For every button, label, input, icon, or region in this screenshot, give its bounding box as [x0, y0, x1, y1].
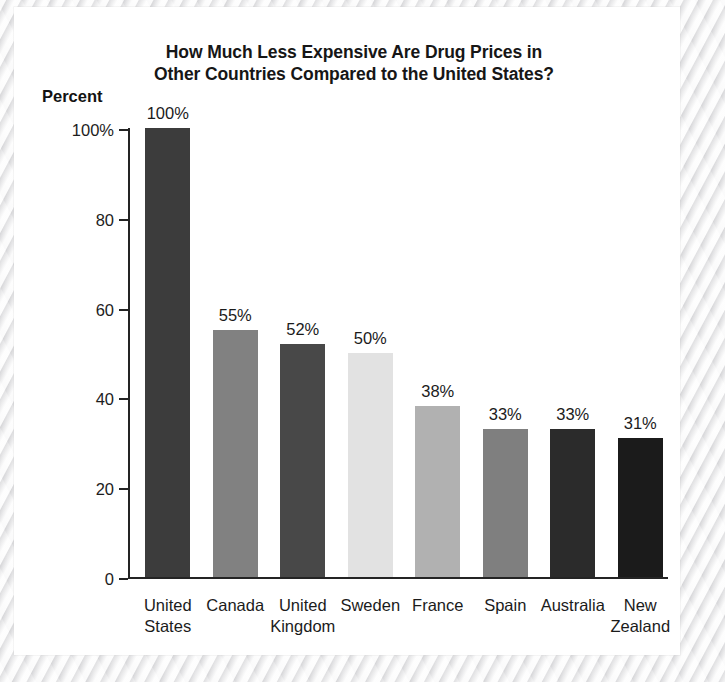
x-axis-category-label: Spain — [484, 595, 526, 616]
y-axis-tick-label: 20 — [96, 480, 114, 499]
y-axis-title: Percent — [42, 87, 103, 106]
y-axis-tick-label: 100% — [72, 121, 114, 140]
x-axis-category-label-line: United — [270, 595, 335, 616]
x-axis-category: France — [404, 581, 472, 641]
x-axis-category: Spain — [472, 581, 540, 641]
x-axis-category: Australia — [539, 581, 607, 641]
bar-group[interactable]: 31% — [618, 128, 663, 577]
y-axis-tick-label: 0 — [105, 570, 114, 589]
x-axis-category-label-line: Sweden — [340, 595, 400, 616]
chart-title-line-2: Other Countries Compared to the United S… — [74, 63, 634, 85]
bar-group[interactable]: 100% — [145, 128, 190, 577]
bar-value-label: 33% — [489, 405, 522, 424]
bar-series: 100%55%52%50%38%33%33%31% — [128, 128, 668, 577]
x-axis-category-label-line: New — [610, 595, 670, 616]
bar-group[interactable]: 50% — [348, 128, 393, 577]
y-axis-tick-mark — [119, 398, 128, 400]
bar-value-label: 52% — [286, 320, 319, 339]
bar-value-label: 33% — [556, 405, 589, 424]
x-axis-category-label-line: France — [412, 595, 463, 616]
y-axis-tick-mark — [119, 309, 128, 311]
x-axis-category-label: UnitedStates — [144, 595, 192, 637]
bar-group[interactable]: 33% — [550, 128, 595, 577]
x-axis-category-label-line: Canada — [206, 595, 264, 616]
x-axis-category: Sweden — [337, 581, 405, 641]
bar-value-label: 50% — [354, 329, 387, 348]
plot-area: 020406080100% 100%55%52%50%38%33%33%31% … — [128, 128, 668, 579]
y-axis-tick-mark — [119, 129, 128, 131]
x-axis-category-label-line: States — [144, 616, 192, 637]
x-axis-category-label-line: Zealand — [610, 616, 670, 637]
chart-title-line-1: How Much Less Expensive Are Drug Prices … — [74, 41, 634, 63]
x-axis-category-label-line: Spain — [484, 595, 526, 616]
bar-group[interactable]: 33% — [483, 128, 528, 577]
x-axis-category-label-line: United — [144, 595, 192, 616]
x-axis-category-label-line: Kingdom — [270, 616, 335, 637]
bar[interactable] — [280, 344, 325, 577]
x-axis-category-labels: UnitedStatesCanadaUnitedKingdomSwedenFra… — [128, 581, 668, 641]
chart-title: How Much Less Expensive Are Drug Prices … — [74, 41, 634, 85]
y-axis-tick-label: 80 — [96, 210, 114, 229]
chart-panel: How Much Less Expensive Are Drug Prices … — [14, 7, 680, 655]
bar[interactable] — [483, 429, 528, 577]
chart-figure: How Much Less Expensive Are Drug Prices … — [14, 7, 680, 655]
x-axis-category: Canada — [202, 581, 270, 641]
bar[interactable] — [213, 330, 258, 577]
bar-group[interactable]: 38% — [415, 128, 460, 577]
bar-value-label: 38% — [421, 382, 454, 401]
x-axis-category-label-line: Australia — [541, 595, 605, 616]
bar[interactable] — [618, 438, 663, 577]
x-axis-category-label: France — [412, 595, 463, 616]
x-axis-category-label: UnitedKingdom — [270, 595, 335, 637]
x-axis-category: UnitedStates — [134, 581, 202, 641]
x-axis-category: NewZealand — [607, 581, 675, 641]
y-axis-tick-mark — [119, 488, 128, 490]
bar-group[interactable]: 52% — [280, 128, 325, 577]
bar-group[interactable]: 55% — [213, 128, 258, 577]
bar-value-label: 31% — [624, 414, 657, 433]
x-axis-category-label: Australia — [541, 595, 605, 616]
bar-value-label: 100% — [147, 104, 189, 123]
bar-value-label: 55% — [219, 306, 252, 325]
y-axis-tick-label: 40 — [96, 390, 114, 409]
x-axis-category: UnitedKingdom — [269, 581, 337, 641]
x-axis-line — [128, 577, 668, 579]
y-axis-tick-mark — [119, 578, 128, 580]
y-axis-tick-label: 60 — [96, 300, 114, 319]
bar[interactable] — [415, 406, 460, 577]
bar[interactable] — [348, 353, 393, 578]
y-axis-tick-mark — [119, 219, 128, 221]
x-axis-category-label: Canada — [206, 595, 264, 616]
x-axis-category-label: NewZealand — [610, 595, 670, 637]
x-axis-category-label: Sweden — [340, 595, 400, 616]
bar[interactable] — [145, 128, 190, 577]
bar[interactable] — [550, 429, 595, 577]
